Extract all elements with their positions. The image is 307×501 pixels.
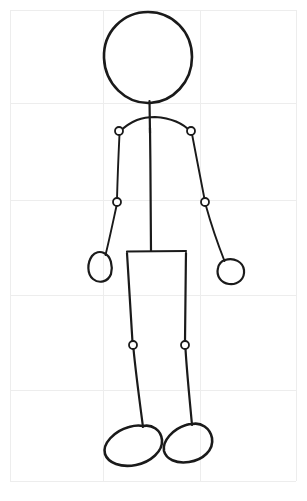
hip-line: [127, 251, 186, 252]
right-knee-joint: [181, 341, 189, 349]
right-elbow-joint: [201, 198, 209, 206]
right-thigh: [185, 253, 186, 342]
right-shoulder-joint: [187, 127, 195, 135]
spine: [150, 128, 151, 251]
left-shoulder-joint: [115, 127, 123, 135]
stick-figure-drawing: [0, 0, 307, 501]
left-knee-joint: [129, 341, 137, 349]
drawing-canvas: [0, 0, 307, 501]
left-elbow-joint: [113, 198, 121, 206]
